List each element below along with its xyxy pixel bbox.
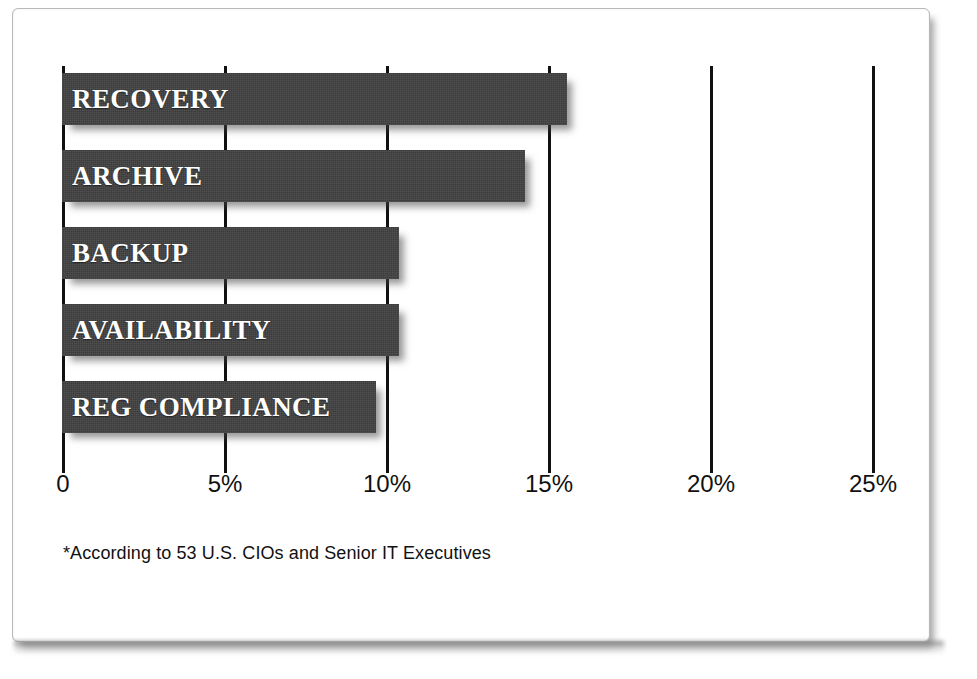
x-axis-tick-label: 0 [56,470,69,498]
bar-item: ARCHIVE [62,150,525,202]
plot-area: RECOVERYARCHIVEBACKUPAVAILABILITYREG COM… [62,66,898,451]
bar-item: RECOVERY [62,73,567,125]
bar-label: RECOVERY [72,73,229,125]
bar-item: REG COMPLIANCE [62,381,376,433]
x-axis-tick-labels: 05%10%15%20%25% [0,470,916,504]
chart-page: RECOVERYARCHIVEBACKUPAVAILABILITYREG COM… [0,0,977,679]
x-axis-tick-label: 5% [208,470,243,498]
gridline [710,66,713,451]
footnote: *According to 53 U.S. CIOs and Senior IT… [63,543,491,564]
bar-label: AVAILABILITY [72,304,271,356]
page-drop-shadow [14,641,944,655]
x-axis-tick-label: 20% [687,470,735,498]
bar-item: BACKUP [62,227,399,279]
bar-item: AVAILABILITY [62,304,399,356]
gridline [872,66,875,451]
bar-label: REG COMPLIANCE [72,381,330,433]
x-axis-tick-label: 25% [849,470,897,498]
x-axis-tick-label: 10% [363,470,411,498]
bar-label: BACKUP [72,227,188,279]
bar-label: ARCHIVE [72,150,202,202]
x-axis-tick-label: 15% [525,470,573,498]
